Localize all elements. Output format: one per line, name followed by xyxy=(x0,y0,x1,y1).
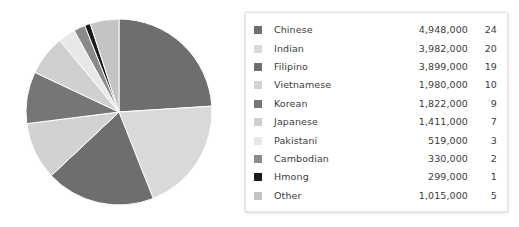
legend-swatch-cell xyxy=(254,150,274,168)
legend-value: 3,982,000 xyxy=(376,39,468,57)
pie-slice xyxy=(119,19,212,112)
legend-value: 299,000 xyxy=(376,168,468,186)
legend-label: Korean xyxy=(274,95,376,113)
legend-swatch-cell xyxy=(254,39,274,57)
legend-row: Other1,015,0005 xyxy=(254,187,497,205)
legend-label: Other xyxy=(274,187,376,205)
pie-chart-figure: Chinese4,948,00024Indian3,982,00020Filip… xyxy=(0,0,519,227)
color-swatch-icon xyxy=(254,137,262,145)
legend-percent: 1 xyxy=(468,168,497,186)
legend-swatch-cell xyxy=(254,187,274,205)
legend-percent: 24 xyxy=(468,21,497,39)
legend-swatch-cell xyxy=(254,76,274,94)
legend-swatch-cell xyxy=(254,113,274,131)
legend-swatch-cell xyxy=(254,58,274,76)
legend-swatch-cell xyxy=(254,21,274,39)
legend-swatch-cell xyxy=(254,168,274,186)
color-swatch-icon xyxy=(254,155,262,163)
legend-percent: 20 xyxy=(468,39,497,57)
legend-percent: 10 xyxy=(468,76,497,94)
color-swatch-icon xyxy=(254,192,262,200)
legend-percent: 9 xyxy=(468,95,497,113)
legend-swatch-cell xyxy=(254,95,274,113)
legend-value: 330,000 xyxy=(376,150,468,168)
color-swatch-icon xyxy=(254,81,262,89)
pie-chart-svg xyxy=(25,18,213,206)
color-swatch-icon xyxy=(254,26,262,34)
legend-value: 4,948,000 xyxy=(376,21,468,39)
legend-value: 3,899,000 xyxy=(376,58,468,76)
legend-row: Chinese4,948,00024 xyxy=(254,21,497,39)
legend-percent: 3 xyxy=(468,131,497,149)
legend-value: 519,000 xyxy=(376,131,468,149)
legend-swatch-cell xyxy=(254,131,274,149)
legend-value: 1,015,000 xyxy=(376,187,468,205)
legend-row: Pakistani519,0003 xyxy=(254,131,497,149)
legend-row: Cambodian330,0002 xyxy=(254,150,497,168)
legend-label: Cambodian xyxy=(274,150,376,168)
legend-row: Filipino3,899,00019 xyxy=(254,58,497,76)
color-swatch-icon xyxy=(254,100,262,108)
legend-panel: Chinese4,948,00024Indian3,982,00020Filip… xyxy=(245,12,508,212)
pie-slice-group xyxy=(26,19,212,205)
legend-label: Japanese xyxy=(274,113,376,131)
legend-percent: 7 xyxy=(468,113,497,131)
legend-label: Indian xyxy=(274,39,376,57)
legend-row: Indian3,982,00020 xyxy=(254,39,497,57)
color-swatch-icon xyxy=(254,173,262,181)
color-swatch-icon xyxy=(254,118,262,126)
legend-label: Hmong xyxy=(274,168,376,186)
legend-label: Pakistani xyxy=(274,131,376,149)
legend-value: 1,411,000 xyxy=(376,113,468,131)
legend-table: Chinese4,948,00024Indian3,982,00020Filip… xyxy=(254,21,497,205)
color-swatch-icon xyxy=(254,45,262,53)
legend-percent: 2 xyxy=(468,150,497,168)
legend-label: Chinese xyxy=(274,21,376,39)
legend-percent: 5 xyxy=(468,187,497,205)
legend-row: Japanese1,411,0007 xyxy=(254,113,497,131)
legend-row: Korean1,822,0009 xyxy=(254,95,497,113)
legend-row: Hmong299,0001 xyxy=(254,168,497,186)
legend-row: Vietnamese1,980,00010 xyxy=(254,76,497,94)
legend-percent: 19 xyxy=(468,58,497,76)
pie-chart xyxy=(25,18,213,206)
legend-value: 1,822,000 xyxy=(376,95,468,113)
legend-value: 1,980,000 xyxy=(376,76,468,94)
legend-label: Filipino xyxy=(274,58,376,76)
legend-label: Vietnamese xyxy=(274,76,376,94)
color-swatch-icon xyxy=(254,63,262,71)
legend-table-body: Chinese4,948,00024Indian3,982,00020Filip… xyxy=(254,21,497,205)
